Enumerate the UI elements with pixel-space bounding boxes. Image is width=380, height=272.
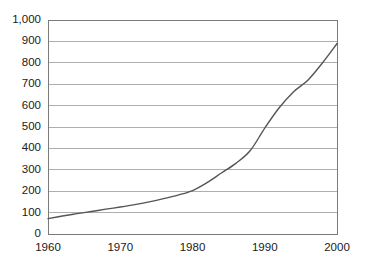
gridlines-group [48, 41, 337, 212]
y-tick-label-500: 500 [22, 120, 41, 132]
series-line-value [48, 44, 337, 219]
y-tick-label-100: 100 [22, 206, 41, 218]
y-tick-label-1000: 1,000 [12, 13, 41, 25]
chart-canvas: 01002003004005006007008009001,000 196019… [0, 0, 380, 272]
x-tick-label-1990: 1990 [252, 241, 278, 253]
x-tick-label-1980: 1980 [180, 241, 206, 253]
y-tick-label-900: 900 [22, 34, 41, 46]
y-tick-label-0: 0 [35, 227, 41, 239]
y-tick-label-200: 200 [22, 184, 41, 196]
x-tick-label-2000: 2000 [324, 241, 350, 253]
y-axis-tick-labels: 01002003004005006007008009001,000 [12, 13, 41, 239]
y-tick-label-300: 300 [22, 163, 41, 175]
y-tick-label-800: 800 [22, 56, 41, 68]
x-axis-tick-labels: 19601970198019902000 [35, 241, 350, 253]
y-tick-label-700: 700 [22, 77, 41, 89]
data-series-group [48, 44, 337, 219]
y-tick-label-600: 600 [22, 99, 41, 111]
y-tick-label-400: 400 [22, 141, 41, 153]
x-tick-label-1970: 1970 [107, 241, 133, 253]
line-chart: 01002003004005006007008009001,000 196019… [0, 0, 380, 272]
x-tick-label-1960: 1960 [35, 241, 61, 253]
